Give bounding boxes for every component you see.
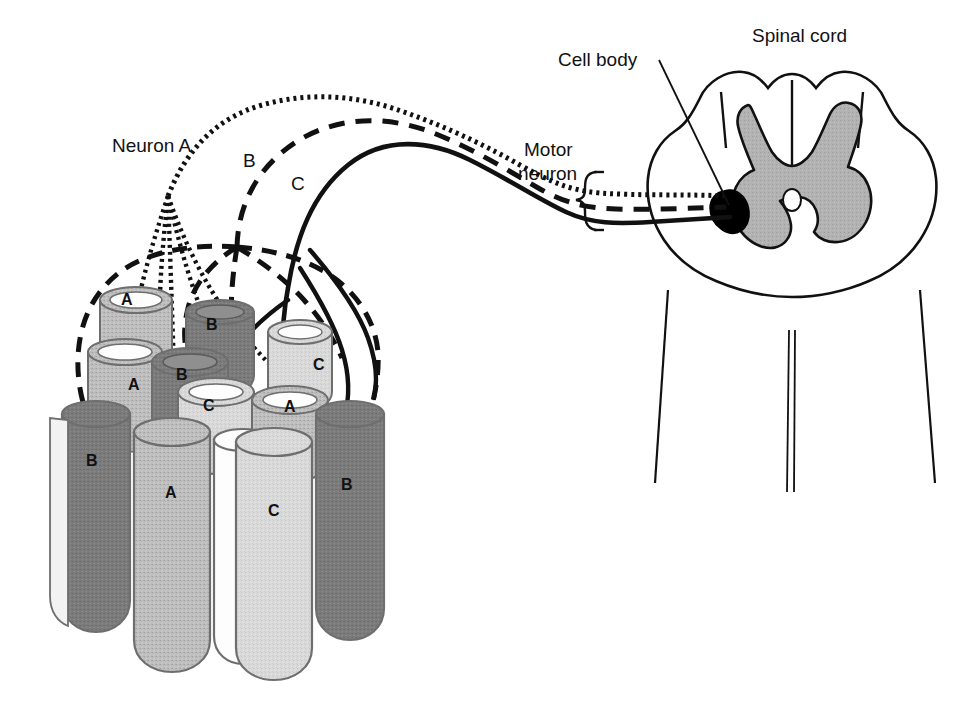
fiber-mid-a3-label: A [284,398,296,415]
fiber-mid-a2-label: A [128,376,140,393]
fiber-front-b4-label: B [341,476,353,493]
fiber-back-c1-label: C [313,356,325,373]
label-motor-neuron-line2: neuron [518,163,577,184]
ventral-fissure-right [794,330,795,492]
fiber-mid-c2-label: C [203,397,215,414]
label-motor-neuron-line1: Motor [524,139,573,160]
central-canal [783,189,801,211]
fiber-front-b4: B [316,401,384,640]
label-neuron-b: B [243,150,256,171]
label-spinal-cord: Spinal cord [752,25,847,46]
label-neuron-a: Neuron A [112,135,192,156]
figure-root: A B C A B [0,0,976,701]
fiber-front-c3: C [236,428,312,680]
fiber-front-b3-sheath [50,418,68,626]
motor-unit-diagram: A B C A B [0,0,976,701]
fiber-mid-b2-label: B [176,366,188,383]
fiber-front-c3-label: C [268,502,280,519]
fiber-front-a4: A [134,418,210,672]
label-neuron-c: C [291,173,305,194]
fiber-back-b1-label: B [206,316,218,333]
fiber-front-a4-label: A [165,484,177,501]
fiber-front-b3-label: B [86,452,98,469]
fiber-back-a1-label: A [121,291,133,308]
fiber-front-b3: B [50,401,130,632]
label-cell-body: Cell body [558,49,638,70]
